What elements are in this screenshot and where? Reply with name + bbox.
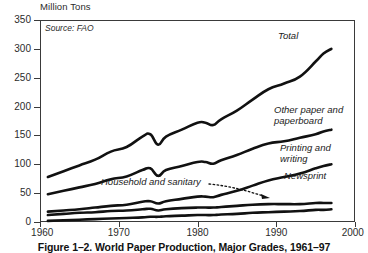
household-leader-arrowhead xyxy=(261,194,270,199)
series-label-household-and-sanitary: Household and sanitary xyxy=(101,177,201,188)
x-axis-tick-label: 1970 xyxy=(108,228,130,238)
y-axis-tick xyxy=(34,20,40,21)
series-label-newsprint: Newsprint xyxy=(284,171,326,182)
x-axis-tick-label: 1980 xyxy=(186,228,208,238)
series-label-total: Total xyxy=(278,31,298,42)
y-axis-tick xyxy=(34,135,40,136)
series-group xyxy=(48,49,332,221)
y-axis-tick xyxy=(34,49,40,50)
series-label-other-paper: Other paper and paperboard xyxy=(274,105,343,126)
series-line-household-and-sanitary xyxy=(48,209,332,221)
series-label-printing-and-writing: Printing and writing xyxy=(280,143,331,164)
figure-world-paper-production: Million Tons Source: FAO 050100150200250… xyxy=(0,0,368,253)
x-axis-tick-label: 1990 xyxy=(265,228,287,238)
chart-data-layer xyxy=(0,0,368,253)
y-axis-tick xyxy=(34,107,40,108)
y-axis-tick xyxy=(34,193,40,194)
figure-caption: Figure 1–2. World Paper Production, Majo… xyxy=(0,241,368,253)
x-axis-tick-label: 2000 xyxy=(342,228,364,238)
y-axis-tick xyxy=(34,78,40,79)
x-axis-tick-label: 1960 xyxy=(31,228,53,238)
y-axis-tick xyxy=(34,164,40,165)
